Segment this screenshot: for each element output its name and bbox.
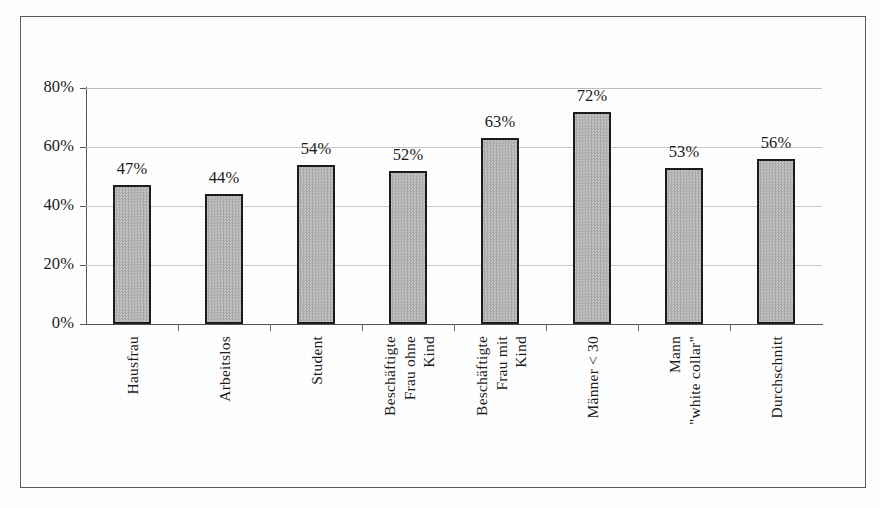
bar-value-label: 52% [373, 145, 443, 165]
x-axis-tick [362, 324, 363, 331]
bar-value-label: 54% [281, 139, 351, 159]
y-axis-tick-label: 80% [12, 77, 74, 97]
x-axis-tick [730, 324, 731, 331]
x-axis-category-label: BeschäftigteFrau ohneKind [382, 336, 439, 486]
x-axis-tick [638, 324, 639, 331]
category-label-line: "white collar" [687, 336, 703, 425]
bar [297, 165, 335, 324]
bar [757, 159, 795, 324]
bar-value-label: 72% [557, 86, 627, 106]
category-label-line: Männer < 30 [585, 336, 601, 418]
category-label-line: Durchschnitt [769, 336, 785, 418]
x-axis-category-label: Arbeitslos [217, 336, 236, 486]
y-axis-tick-label: 60% [12, 136, 74, 156]
x-axis-category-label: BeschäftigteFrau mitKind [474, 336, 531, 486]
category-label-line: Mann [667, 336, 683, 373]
x-axis-category-label: Student [309, 336, 328, 486]
category-label-line: Beschäftigte [382, 336, 398, 416]
y-axis-tick-label: 40% [12, 195, 74, 215]
y-axis-tick [80, 324, 86, 325]
category-label-line: Kind [421, 336, 437, 368]
bar [389, 171, 427, 324]
bar-value-label: 63% [465, 112, 535, 132]
category-label-line: Kind [513, 336, 529, 368]
category-label-line: Arbeitslos [217, 336, 233, 402]
x-axis-tick [178, 324, 179, 331]
bar [665, 168, 703, 324]
category-label-line: Beschäftigte [474, 336, 490, 416]
category-label-line: Hausfrau [125, 336, 141, 394]
bar-value-label: 56% [741, 133, 811, 153]
y-axis-tick-label: 20% [12, 254, 74, 274]
x-axis-category-label: Hausfrau [125, 336, 144, 486]
x-axis-category-label: Männer < 30 [585, 336, 604, 486]
x-axis-category-label: Mann"white collar" [667, 336, 705, 486]
plot-area [86, 88, 822, 324]
gridline-80% [86, 88, 822, 89]
category-label-line: Frau ohne [402, 336, 418, 400]
category-label-line: Student [309, 336, 325, 385]
x-axis-tick [546, 324, 547, 331]
y-axis-tick-label: 0% [12, 313, 74, 333]
bar [481, 138, 519, 324]
gridline-40% [86, 206, 822, 207]
category-label-line: Frau mit [494, 336, 510, 391]
bar [113, 185, 151, 324]
bar-value-label: 44% [189, 168, 259, 188]
gridline-20% [86, 265, 822, 266]
bar [573, 112, 611, 324]
x-axis-tick [270, 324, 271, 331]
chart-page: 0%20%40%60%80% 47%44%54%52%63%72%53%56% … [0, 0, 880, 508]
bar [205, 194, 243, 324]
bar-value-label: 47% [97, 159, 167, 179]
x-axis-tick [454, 324, 455, 331]
x-axis-category-label: Durchschnitt [769, 336, 788, 486]
bar-value-label: 53% [649, 142, 719, 162]
